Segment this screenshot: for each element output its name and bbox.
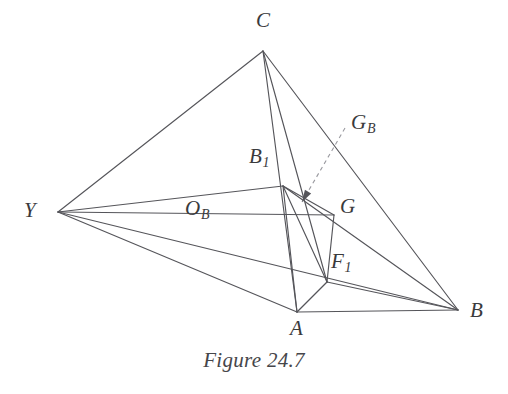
edge-C-Y bbox=[58, 51, 263, 212]
pointer-group bbox=[302, 128, 345, 202]
vertex-label-OB-text: O bbox=[185, 196, 200, 220]
edge-A-B bbox=[297, 310, 458, 312]
vertex-label-C-text: C bbox=[256, 8, 270, 32]
vertex-label-F1-subscript: 1 bbox=[345, 260, 352, 275]
vertex-label-GB-subscript: B bbox=[367, 121, 376, 136]
leader-line-GB bbox=[302, 128, 345, 202]
vertex-label-B1: B1 bbox=[249, 146, 269, 167]
geometric-figure: CYABB1OBGGBF1 Figure 24.7 bbox=[0, 0, 508, 394]
edge-Y-B1 bbox=[58, 186, 283, 212]
edge-B1-A bbox=[283, 186, 297, 312]
edge-C-F1 bbox=[263, 51, 327, 282]
vertex-label-A: A bbox=[290, 318, 303, 339]
vertex-label-GB: GB bbox=[351, 112, 375, 133]
figure-canvas bbox=[0, 0, 508, 394]
vertex-label-OB-subscript: B bbox=[201, 207, 210, 222]
vertex-label-B-text: B bbox=[470, 298, 483, 322]
vertex-label-GB-text: G bbox=[351, 110, 366, 134]
vertex-label-B1-text: B bbox=[249, 144, 262, 168]
vertex-label-B1-subscript: 1 bbox=[263, 155, 270, 170]
vertex-label-G-text: G bbox=[340, 194, 355, 218]
edge-B1-G bbox=[283, 186, 334, 215]
vertex-label-C: C bbox=[256, 10, 270, 31]
vertex-label-F1-text: F bbox=[331, 249, 344, 273]
figure-caption: Figure 24.7 bbox=[0, 348, 508, 373]
vertex-label-Y: Y bbox=[24, 200, 36, 221]
edge-A-F1 bbox=[297, 282, 327, 312]
edge-B1-F1 bbox=[283, 186, 327, 282]
vertex-label-G: G bbox=[340, 196, 355, 217]
edge-group bbox=[58, 51, 458, 312]
vertex-label-OB: OB bbox=[185, 198, 209, 219]
vertex-label-A-text: A bbox=[290, 316, 303, 340]
vertex-label-F1: F1 bbox=[331, 251, 351, 272]
vertex-label-Y-text: Y bbox=[24, 198, 36, 222]
vertex-label-B: B bbox=[470, 300, 483, 321]
